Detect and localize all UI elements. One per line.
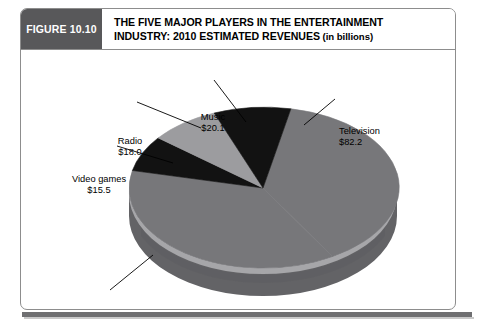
callout-music: Music $20.1 [185,112,241,133]
callout-video-games-category: Video games [65,174,133,185]
leader-line-motion [110,255,153,290]
callout-video-games-value: $15.5 [65,185,133,196]
callout-television-value: $82.2 [339,137,411,148]
callout-radio-value: $18.0 [105,147,155,158]
figure-title-line-2: INDUSTRY: 2010 ESTIMATED REVENUES (in bi… [114,29,449,44]
page-bottom-rule-shadow [24,317,474,319]
figure-title-line-1: THE FIVE MAJOR PLAYERS IN THE ENTERTAINM… [114,15,449,29]
figure-title-units: (in billions) [323,31,374,42]
chart-plot-area: Music $20.1 Television $82.2 Radio $18.0… [21,50,455,309]
callout-radio: Radio $18.0 [105,136,155,157]
callout-radio-category: Radio [105,136,155,147]
callout-television: Television $82.2 [339,126,411,147]
figure-header: FIGURE 10.10 THE FIVE MAJOR PLAYERS IN T… [21,9,455,50]
figure-title: THE FIVE MAJOR PLAYERS IN THE ENTERTAINM… [102,9,455,49]
figure-title-line-2-main: INDUSTRY: 2010 ESTIMATED REVENUES [114,30,320,42]
figure-number-label: FIGURE 10.10 [26,23,97,35]
figure-number-badge: FIGURE 10.10 [21,9,102,49]
callout-music-value: $20.1 [185,123,241,134]
callout-video-games: Video games $15.5 [65,174,133,195]
callout-television-category: Television [339,126,411,137]
callout-music-category: Music [185,112,241,123]
figure-frame: FIGURE 10.10 THE FIVE MAJOR PLAYERS IN T… [20,8,456,310]
